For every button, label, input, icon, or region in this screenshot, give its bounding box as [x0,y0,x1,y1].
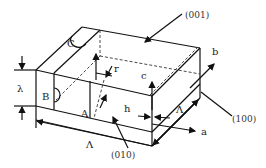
label-b-face: B [42,91,49,102]
plane-001-label: (001) [185,10,209,20]
step-height-dimension: h [124,103,170,118]
width-label: Λ [175,104,184,115]
axis-c-label: c [141,70,147,81]
label-c-face: C [67,38,75,49]
step-height-label: h [124,103,131,114]
thickness-dimension: λ [14,56,36,120]
length-dimension: Λ [36,120,152,150]
top-face [36,27,200,96]
crystal-diagram: C B A λ Λ Λ h r c a b [0,0,266,168]
plane-100-label: (100) [232,114,256,124]
width-dimension: Λ [152,100,198,146]
radius-label: r [114,63,119,74]
plane-010-label: (010) [111,150,135,160]
axis-a-label: a [201,126,207,137]
front-face [36,70,152,146]
axis-b-label: b [212,46,218,57]
length-label: Λ [85,139,94,150]
notch-b [54,88,60,102]
plane-callouts: (001) (100) (010) [111,10,256,160]
label-a-step: A [80,108,89,119]
thickness-label: λ [17,83,24,94]
